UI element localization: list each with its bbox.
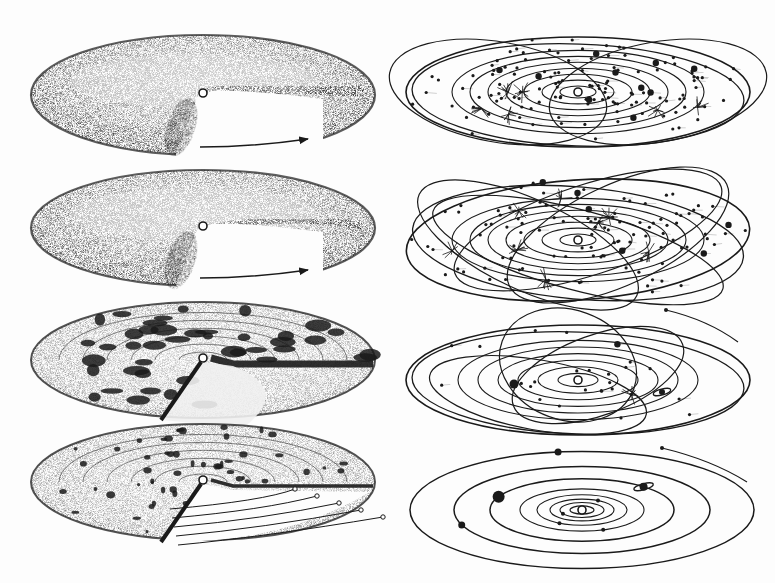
planetesimal	[177, 428, 185, 432]
sun-icon	[578, 506, 586, 514]
planetesimal	[133, 517, 141, 520]
body	[558, 404, 561, 407]
planetesimal	[322, 466, 326, 469]
body	[518, 268, 521, 271]
planetesimal	[106, 491, 115, 498]
body	[513, 73, 516, 76]
body	[632, 233, 635, 236]
planetesimal	[201, 462, 206, 468]
body	[603, 254, 606, 257]
gas-clump	[99, 344, 117, 351]
system-final	[410, 446, 754, 568]
gas-clump	[178, 306, 189, 313]
body	[635, 101, 638, 104]
body	[640, 258, 643, 261]
neptune-icon	[555, 449, 562, 456]
gas-clump	[95, 314, 105, 326]
planetesimal	[224, 433, 230, 439]
body	[683, 97, 686, 100]
body	[678, 97, 681, 100]
planetesimal	[152, 501, 156, 507]
body	[616, 69, 619, 72]
motion-trail	[561, 123, 572, 124]
body	[478, 96, 481, 99]
body	[444, 273, 447, 276]
body	[565, 331, 568, 334]
gas-clump	[245, 347, 267, 353]
comet-path	[662, 448, 747, 482]
body	[498, 83, 501, 86]
motion-trail	[544, 193, 556, 194]
body	[581, 246, 584, 249]
body	[725, 222, 731, 228]
body	[619, 416, 622, 419]
body	[557, 81, 560, 84]
body	[471, 74, 474, 77]
body	[519, 231, 522, 234]
body	[479, 233, 482, 236]
body	[653, 60, 659, 66]
body	[605, 81, 608, 84]
planetesimal	[227, 470, 235, 474]
body	[495, 100, 498, 103]
body	[504, 66, 507, 69]
body	[674, 111, 677, 114]
planetesimal	[170, 486, 177, 493]
body	[704, 65, 707, 68]
body	[642, 91, 645, 94]
gas-clump	[140, 388, 161, 395]
body	[538, 87, 541, 90]
body	[426, 245, 429, 248]
nebula-torus-2	[31, 170, 375, 316]
body	[593, 98, 596, 101]
body	[638, 85, 644, 91]
body	[564, 255, 567, 258]
body	[618, 46, 621, 49]
comet-icon	[660, 446, 664, 450]
nebula-torus-1	[31, 35, 375, 185]
motion-trail	[713, 206, 725, 207]
body	[665, 194, 668, 197]
planetesimal	[293, 487, 297, 491]
body	[522, 51, 525, 54]
solar-system-formation-figure	[0, 0, 775, 583]
body	[600, 389, 603, 392]
planetesimal	[94, 487, 98, 491]
body	[697, 204, 700, 207]
body	[459, 204, 462, 207]
body	[607, 373, 610, 376]
body	[539, 201, 542, 204]
sun-icon	[199, 89, 207, 97]
body	[451, 104, 454, 107]
body	[601, 98, 604, 101]
body	[660, 246, 663, 249]
body	[597, 84, 600, 87]
planetesimal	[114, 447, 120, 452]
jupiter-icon	[493, 491, 505, 503]
inner-planet-1-icon	[561, 512, 565, 516]
body	[465, 116, 468, 119]
planetesimal	[268, 432, 276, 438]
gas-clump	[127, 395, 151, 404]
collision-burst-icon	[471, 107, 490, 118]
body	[431, 75, 434, 78]
body	[517, 217, 520, 220]
gas-clump	[359, 349, 380, 361]
body	[613, 241, 616, 244]
planetesimal	[275, 453, 283, 457]
gas-clump	[305, 320, 331, 332]
sun-icon	[199, 354, 207, 362]
planetesimal	[260, 427, 264, 434]
body	[706, 237, 709, 240]
nebula-disk-clumps	[31, 302, 381, 428]
body	[681, 94, 684, 97]
planetesimal	[337, 501, 341, 505]
body	[457, 211, 460, 214]
planetesimal	[151, 481, 154, 484]
body	[559, 96, 562, 99]
left-column-nebula-stages	[31, 35, 385, 545]
body	[692, 75, 695, 78]
planetesimal	[220, 461, 223, 467]
body	[538, 398, 541, 401]
motion-trail	[426, 93, 437, 94]
